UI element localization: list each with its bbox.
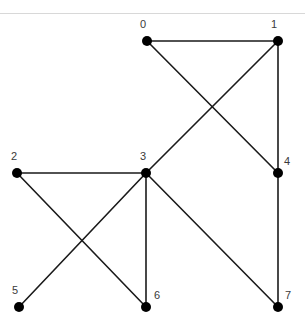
graph-edge	[146, 173, 278, 307]
graph-node[interactable]	[141, 302, 151, 312]
graph-node[interactable]	[273, 302, 283, 312]
graph-node-label: 0	[140, 18, 146, 30]
graph-node-label: 2	[11, 150, 17, 162]
graph-node-label: 1	[271, 18, 277, 30]
graph-node-label: 5	[12, 284, 18, 296]
graph-node[interactable]	[12, 168, 22, 178]
graph-node-label: 6	[154, 289, 160, 301]
labels-layer: 01234567	[11, 18, 291, 301]
graph-node-label: 3	[140, 150, 146, 162]
graph-node[interactable]	[142, 36, 152, 46]
graph-node[interactable]	[273, 168, 283, 178]
graph-node[interactable]	[14, 302, 24, 312]
graph-figure: 01234567	[0, 0, 305, 327]
graph-node-label: 4	[284, 155, 290, 167]
graph-canvas: 01234567	[0, 0, 305, 327]
graph-node[interactable]	[141, 168, 151, 178]
graph-node-label: 7	[285, 289, 291, 301]
graph-node[interactable]	[273, 36, 283, 46]
